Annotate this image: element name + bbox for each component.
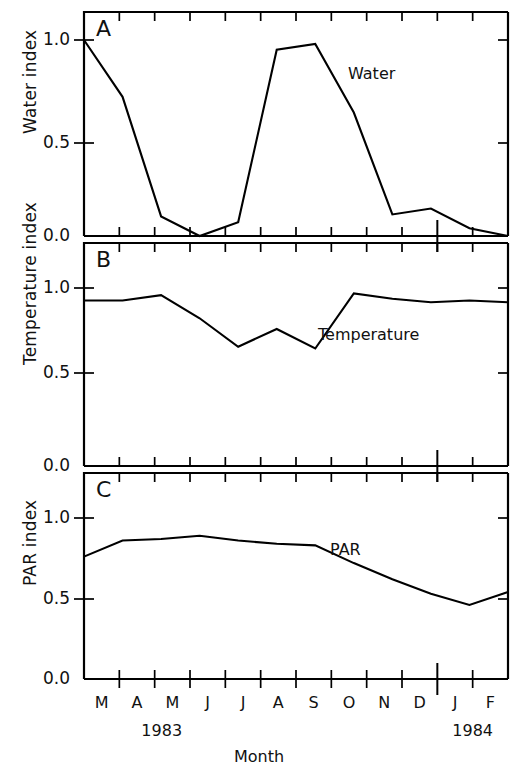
month-label: D [406,693,434,712]
y-tick-label: 0.0 [22,455,70,475]
series-annotation-temperature: Temperature [318,325,419,344]
month-label: A [264,693,292,712]
series-line-temperature [84,293,508,348]
panel-letter-b: B [96,247,111,272]
month-label: J [194,693,222,712]
series-annotation-water: Water [348,64,395,83]
month-label: S [300,693,328,712]
y-tick-label: 0.5 [22,588,70,608]
series-annotation-par: PAR [330,540,361,559]
series-line-par [84,536,508,605]
panel-letter-a: A [96,16,111,41]
panel-c-frame [84,473,508,679]
year-label-1983: 1983 [134,721,190,740]
y-axis-title-a: Water index [20,30,40,134]
month-label: M [88,693,116,712]
panel-letter-c: C [96,477,111,502]
month-label: J [441,693,469,712]
y-axis-title-c: PAR index [20,500,40,586]
y-tick-label: 0.5 [22,132,70,152]
panel-a-frame [84,12,508,236]
panel-b-frame [84,243,508,466]
month-label: A [123,693,151,712]
y-tick-label: 0.5 [22,362,70,382]
month-label: M [158,693,186,712]
multi-panel-chart [0,0,515,764]
month-label: N [370,693,398,712]
month-label: F [476,693,504,712]
month-label: O [335,693,363,712]
year-label-1984: 1984 [445,721,501,740]
x-axis-title: Month [234,747,284,764]
figure-root: A1.00.50.0Water indexB1.00.50.0Temperatu… [0,0,515,764]
month-label: J [229,693,257,712]
series-line-water [84,40,508,236]
y-axis-title-b: Temperature index [20,202,40,365]
y-tick-label: 0.0 [22,668,70,688]
